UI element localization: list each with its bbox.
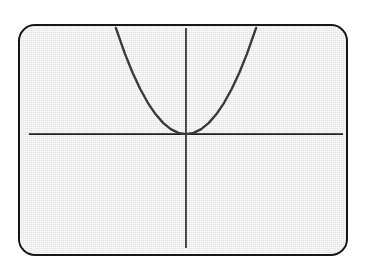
parabola-plot[interactable] bbox=[20, 26, 346, 254]
calculator-screen-bezel[interactable] bbox=[18, 24, 348, 256]
screenshot-root bbox=[0, 0, 370, 270]
